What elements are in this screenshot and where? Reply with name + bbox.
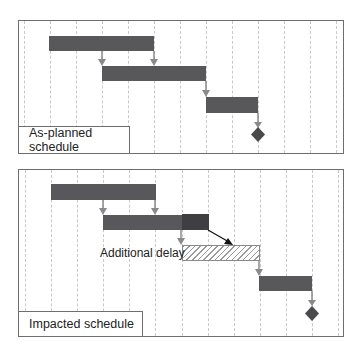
connectors-layer xyxy=(0,0,364,351)
dependency-arrow-icon xyxy=(99,200,316,306)
dependency-arrow-icon xyxy=(98,51,262,128)
planned-milestone-diamond-icon xyxy=(251,127,265,142)
impacted-milestone-diamond-icon xyxy=(305,306,319,321)
delay-arrow-icon xyxy=(208,230,233,245)
